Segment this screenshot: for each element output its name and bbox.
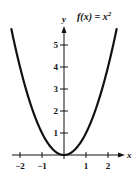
- title-exponent: 2: [107, 10, 112, 18]
- title-base: f(x) = x: [77, 11, 108, 23]
- y-axis-label: y: [61, 14, 67, 24]
- parabola-chart: −2−11212345 x y f(x) = x2: [0, 0, 138, 178]
- axes: [12, 26, 125, 159]
- y-tick-label: 3: [54, 84, 59, 94]
- y-tick-label: 5: [54, 40, 59, 50]
- x-axis-arrow-icon: [118, 153, 125, 158]
- y-tick-label: 1: [54, 128, 59, 138]
- x-axis-label: x: [126, 150, 132, 160]
- chart-title: f(x) = x2: [77, 10, 112, 23]
- x-tick-label: −1: [37, 161, 47, 171]
- x-tick-label: 2: [106, 161, 111, 171]
- y-tick-label: 2: [54, 106, 59, 116]
- x-tick-label: 1: [84, 161, 89, 171]
- x-tick-label: −2: [15, 161, 25, 171]
- y-axis-arrow-icon: [62, 26, 67, 33]
- y-tick-label: 4: [54, 62, 59, 72]
